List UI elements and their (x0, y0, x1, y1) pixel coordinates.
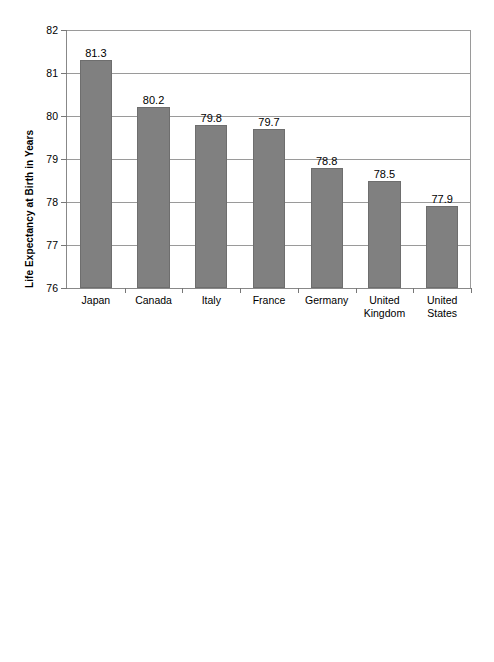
gridline (67, 30, 471, 31)
x-axis-category-label: Germany (305, 294, 348, 307)
bar-value-label: 80.2 (143, 94, 164, 106)
bar: 79.8 (195, 125, 227, 288)
x-axis-category-label-line: States (427, 307, 457, 320)
bar: 80.2 (137, 107, 169, 288)
x-axis-category-label-line: United (427, 294, 457, 307)
y-axis-tick-label: 78 (46, 196, 58, 208)
bar-value-label: 81.3 (85, 47, 106, 59)
y-axis-tick-label: 82 (46, 24, 58, 36)
x-axis-tick (471, 288, 472, 293)
bar: 79.7 (253, 129, 285, 288)
x-axis-category-label: Canada (135, 294, 172, 307)
bar-value-label: 79.8 (201, 112, 222, 124)
y-axis-tick (61, 159, 67, 160)
bar: 81.3 (80, 60, 112, 288)
x-axis-category-label: UnitedStates (427, 294, 457, 319)
y-axis-tick (61, 30, 67, 31)
x-axis-tick (182, 288, 183, 293)
y-axis-title: Life Expectancy at Birth in Years (24, 130, 35, 288)
infant-deaths-chart: Deaths Under 1 Year Divided by Live Birt… (0, 330, 494, 662)
x-axis-tick (240, 288, 241, 293)
x-axis-tick (356, 288, 357, 293)
x-axis-category-label-line: Kingdom (364, 307, 405, 320)
y-axis-tick-label: 80 (46, 110, 58, 122)
x-axis-category-label: UnitedKingdom (364, 294, 405, 319)
bar-value-label: 79.7 (258, 116, 279, 128)
y-axis-tick (61, 245, 67, 246)
x-axis-category-label-line: Japan (82, 294, 111, 307)
y-axis-tick-label: 77 (46, 239, 58, 251)
y-axis-tick (61, 202, 67, 203)
y-axis-tick-label: 76 (46, 282, 58, 294)
x-axis-tick (413, 288, 414, 293)
x-axis-category-label: France (253, 294, 286, 307)
plot-area: 7677787980818281.3Japan80.2Canada79.8Ita… (66, 30, 471, 289)
x-axis-tick (125, 288, 126, 293)
x-axis-tick (298, 288, 299, 293)
y-axis-tick-label: 79 (46, 153, 58, 165)
bar-value-label: 78.8 (316, 155, 337, 167)
x-axis-category-label-line: Italy (202, 294, 221, 307)
bar-value-label: 77.9 (431, 193, 452, 205)
x-axis-category-label: Japan (82, 294, 111, 307)
x-axis-category-label-line: France (253, 294, 286, 307)
y-axis-tick-label: 81 (46, 67, 58, 79)
gridline (67, 73, 471, 74)
bar: 78.5 (368, 181, 400, 289)
x-axis-category-label-line: United (364, 294, 405, 307)
y-axis-tick (61, 288, 67, 289)
y-axis-tick (61, 73, 67, 74)
life-expectancy-chart: Life Expectancy at Birth in Years 767778… (0, 0, 494, 330)
bar-value-label: 78.5 (374, 168, 395, 180)
x-axis-category-label-line: Canada (135, 294, 172, 307)
x-axis-category-label-line: Germany (305, 294, 348, 307)
y-axis-tick (61, 116, 67, 117)
bar: 78.8 (311, 168, 343, 288)
x-axis-category-label: Italy (202, 294, 221, 307)
bar: 77.9 (426, 206, 458, 288)
